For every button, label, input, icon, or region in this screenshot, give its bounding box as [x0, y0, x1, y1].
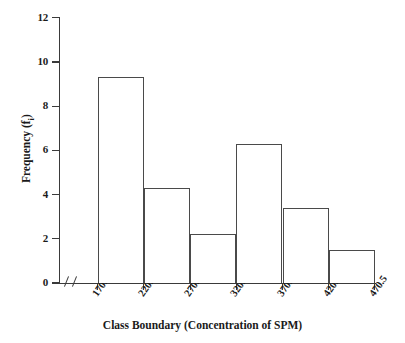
y-axis-line: [59, 17, 60, 284]
histogram-bar: [190, 234, 236, 283]
x-axis-break-mark: [72, 276, 77, 287]
y-axis-tick-label: 12: [8, 12, 48, 23]
x-axis-break-mark: [64, 276, 69, 287]
y-axis-tick-label: 0: [8, 277, 48, 288]
histogram-bar: [98, 77, 144, 283]
y-axis-title-suffix: ): [20, 114, 32, 118]
y-axis-tick-label: 10: [8, 56, 48, 67]
y-axis-tick-label: 6: [8, 144, 48, 155]
y-axis-tick-label: 8: [8, 100, 48, 111]
y-axis-tick-label: 4: [8, 189, 48, 200]
x-axis-title: Class Boundary (Concentration of SPM): [0, 319, 405, 331]
y-axis-tick: [52, 61, 59, 62]
histogram-bar: [236, 144, 282, 283]
y-axis-tick: [52, 106, 59, 107]
y-axis-tick: [52, 238, 59, 239]
y-axis-tick: [52, 282, 59, 283]
y-axis-tick-label: 2: [8, 233, 48, 244]
histogram-chart: Frequency (fi) Class Boundary (Concentra…: [0, 0, 405, 343]
histogram-bar: [283, 208, 329, 283]
histogram-bar: [329, 250, 375, 283]
y-axis-tick: [52, 17, 59, 18]
y-axis-tick: [52, 194, 59, 195]
histogram-bar: [144, 188, 190, 283]
y-axis-title-subscript: i: [26, 118, 36, 120]
y-axis-tick: [52, 150, 59, 151]
